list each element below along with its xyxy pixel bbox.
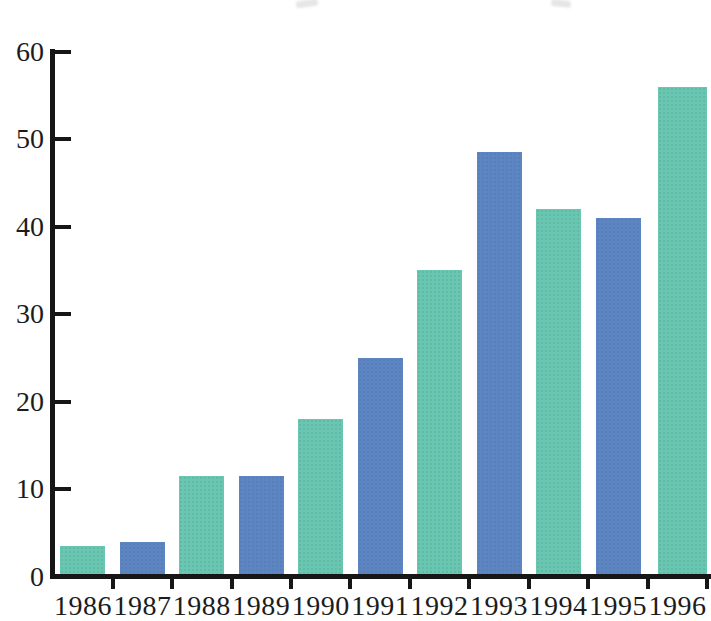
cropped-title-artifact bbox=[551, 0, 572, 8]
x-axis-tick bbox=[170, 578, 174, 589]
x-axis-tick bbox=[408, 578, 412, 589]
x-tick-label-1995: 1995 bbox=[586, 592, 650, 620]
x-axis-tick bbox=[527, 578, 531, 589]
x-tick-label-1988: 1988 bbox=[170, 592, 234, 620]
x-tick-label-1992: 1992 bbox=[408, 592, 472, 620]
x-axis-tick bbox=[111, 578, 115, 589]
y-tick-label: 60 bbox=[0, 37, 44, 67]
x-axis-tick bbox=[705, 578, 709, 589]
bar-1988 bbox=[179, 476, 224, 578]
y-axis-line bbox=[50, 49, 55, 579]
cropped-title-artifact bbox=[296, 0, 319, 8]
x-tick-label-1989: 1989 bbox=[229, 592, 293, 620]
bar-1995 bbox=[596, 218, 641, 578]
y-tick-label: 50 bbox=[0, 124, 44, 154]
x-tick-label-1994: 1994 bbox=[527, 592, 591, 620]
x-tick-label-1993: 1993 bbox=[467, 592, 531, 620]
x-axis-tick bbox=[467, 578, 471, 589]
x-axis-tick bbox=[586, 578, 590, 589]
y-tick-label: 10 bbox=[0, 474, 44, 504]
bar-1987 bbox=[120, 542, 165, 579]
bar-1989 bbox=[239, 476, 284, 578]
x-axis-tick bbox=[289, 578, 293, 589]
y-tick-label: 30 bbox=[0, 299, 44, 329]
x-tick-label-1986: 1986 bbox=[51, 592, 115, 620]
bar-1991 bbox=[358, 358, 403, 578]
x-axis-tick bbox=[348, 578, 352, 589]
bar-1996 bbox=[658, 87, 707, 579]
x-tick-label-1991: 1991 bbox=[348, 592, 412, 620]
y-tick-label: 40 bbox=[0, 212, 44, 242]
x-axis-tick bbox=[230, 578, 234, 589]
x-axis-line bbox=[50, 574, 711, 579]
x-tick-label-1996: 1996 bbox=[645, 592, 709, 620]
x-tick-label-1987: 1987 bbox=[110, 592, 174, 620]
x-tick-label-1990: 1990 bbox=[289, 592, 353, 620]
bar-1990 bbox=[298, 419, 343, 578]
y-tick-label: 20 bbox=[0, 387, 44, 417]
x-axis-tick bbox=[646, 578, 650, 589]
bar-1993 bbox=[477, 152, 522, 578]
bar-1994 bbox=[536, 209, 581, 578]
y-tick-label: 0 bbox=[0, 562, 44, 592]
bar-chart: 1986198719881989199019911992199319941995… bbox=[0, 0, 711, 621]
bar-1992 bbox=[417, 270, 462, 578]
